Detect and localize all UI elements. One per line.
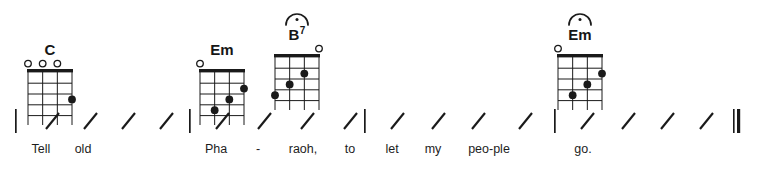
chord-label: B7 [265, 26, 329, 43]
lyric-word: peo-ple [468, 142, 510, 157]
barline [554, 109, 556, 133]
rhythm-slash [160, 113, 173, 129]
rhythm-slash [258, 113, 271, 129]
chord-label: C [18, 41, 82, 58]
fretboard-grid [548, 44, 612, 110]
fermata-icon [265, 11, 329, 26]
chord-diagram-em[interactable]: Em [548, 11, 612, 110]
lyric-word: to [345, 142, 355, 157]
barline [364, 109, 366, 133]
rhythm-staff [0, 108, 761, 136]
rhythm-slash [622, 113, 635, 129]
fermata-icon [18, 26, 82, 41]
barline-final [737, 109, 740, 133]
lyric-word: - [256, 142, 260, 157]
rhythm-slash [216, 113, 229, 129]
rhythm-slash [472, 113, 485, 129]
rhythm-slash [344, 113, 357, 129]
fermata-icon [190, 26, 254, 41]
rhythm-slash [432, 113, 445, 129]
chord-label: Em [190, 41, 254, 58]
chord-diagram-b7[interactable]: B7 [265, 11, 329, 110]
lyric-word: my [425, 142, 442, 157]
lyric-word: let [385, 142, 398, 157]
rhythm-slash [661, 113, 674, 129]
barline [189, 109, 191, 133]
barline [15, 109, 17, 133]
lyric-word: go. [574, 142, 591, 157]
rhythm-slash [700, 113, 713, 129]
rhythm-slash [391, 113, 404, 129]
lead-sheet: CEmB7Em TelloldPha-raoh,toletmypeo-plego… [0, 0, 761, 170]
rhythm-slash [46, 113, 59, 129]
rhythm-slash [122, 113, 135, 129]
rhythm-slash [581, 113, 594, 129]
lyric-word: Pha [205, 142, 227, 157]
fermata-icon [548, 11, 612, 26]
rhythm-slash [84, 113, 97, 129]
lyric-word: Tell [32, 142, 51, 157]
chord-label: Em [548, 26, 612, 43]
rhythm-slash [301, 113, 314, 129]
lyric-word: old [75, 142, 92, 157]
barline-final [733, 109, 735, 133]
lyric-word: raoh, [289, 142, 318, 157]
rhythm-slash [519, 113, 532, 129]
fretboard-grid [265, 44, 329, 110]
